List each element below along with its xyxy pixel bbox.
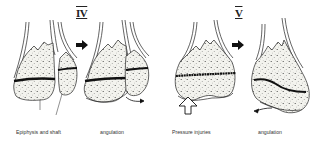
type-iv-after-caption: angulation later xyxy=(100,117,124,144)
caption-line: Pressure injuries xyxy=(172,129,220,135)
diagram-canvas: IV V Epiphysis and shaft split angulatio… xyxy=(0,0,316,144)
curved-arrow-icon xyxy=(126,97,144,103)
caption-line: angulation xyxy=(258,129,282,135)
type-iv-numeral: IV xyxy=(76,8,87,19)
right-arrow-icon xyxy=(232,40,244,50)
type-v-bone-after xyxy=(252,18,310,113)
type-iv-bone-before xyxy=(14,20,77,115)
type-iv-bone-after xyxy=(84,20,149,102)
type-v-numeral: V xyxy=(235,8,242,19)
type-v-bone-before xyxy=(175,20,236,100)
type-iv-before-caption: Epiphysis and shaft split xyxy=(16,117,61,144)
caption-line: Epiphysis and shaft xyxy=(16,129,61,135)
type-v-after-caption: angulation later xyxy=(258,117,282,144)
type-v-before-caption: Pressure injuries the epiphyseal plate. xyxy=(172,117,220,144)
caption-line: angulation xyxy=(100,129,124,135)
right-arrow-icon xyxy=(76,40,88,50)
curved-arrow-icon xyxy=(254,108,272,113)
